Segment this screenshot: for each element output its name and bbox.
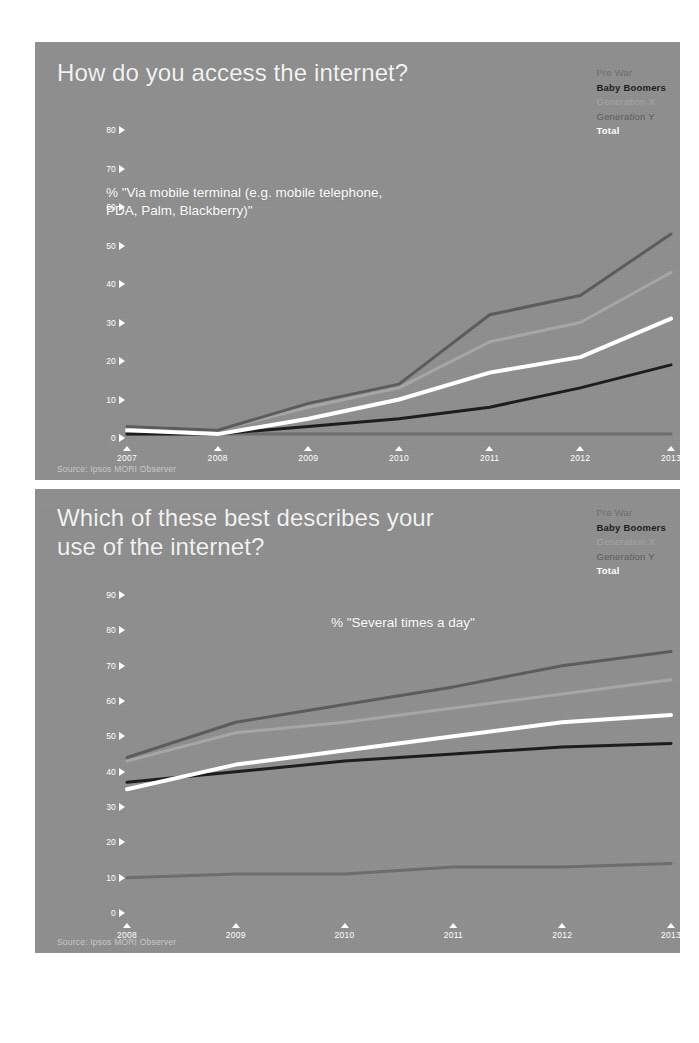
series-line-baby-boomers bbox=[127, 743, 671, 782]
tick-marker-triangle-icon bbox=[449, 923, 457, 928]
x-axis-tick-label: 2013 bbox=[661, 930, 680, 940]
legend-item-generation-y[interactable]: Generation Y bbox=[597, 110, 655, 124]
source-note: Source: Ipsos MORI Observer bbox=[57, 937, 176, 947]
tick-marker-triangle-icon bbox=[341, 923, 349, 928]
x-axis-tick: 2009 bbox=[226, 923, 246, 940]
series-line-pre-war bbox=[127, 864, 671, 878]
x-axis-tick-label: 2009 bbox=[226, 930, 246, 940]
line-chart-internet-use-frequency: 0102030405060708090 20082009201020112012… bbox=[81, 589, 677, 919]
x-axis-tick-label: 2009 bbox=[298, 453, 318, 463]
x-axis-tick: 2010 bbox=[335, 923, 355, 940]
series-line-total bbox=[127, 319, 671, 435]
legend-item-pre-war[interactable]: Pre War bbox=[597, 66, 633, 80]
x-axis-tick-label: 2012 bbox=[570, 453, 590, 463]
x-axis-tick: 2013 bbox=[661, 923, 680, 940]
legend-item-total[interactable]: Total bbox=[597, 564, 620, 578]
x-axis-tick: 2007 bbox=[117, 446, 137, 463]
x-axis-tick: 2010 bbox=[389, 446, 409, 463]
chart-plot-area bbox=[81, 124, 677, 444]
tick-marker-triangle-icon bbox=[232, 923, 240, 928]
tick-marker-triangle-icon bbox=[123, 446, 131, 451]
x-axis-tick: 2008 bbox=[208, 446, 228, 463]
tick-marker-triangle-icon bbox=[486, 446, 494, 451]
legend-item-baby-boomers[interactable]: Baby Boomers bbox=[597, 521, 666, 535]
chart-svg bbox=[81, 589, 677, 919]
x-axis-tick-label: 2007 bbox=[117, 453, 137, 463]
page-title: Which of these best describes your use o… bbox=[57, 503, 434, 562]
x-axis-tick-label: 2010 bbox=[335, 930, 355, 940]
legend-item-generation-x[interactable]: Generation X bbox=[597, 535, 655, 549]
x-axis-tick: 2009 bbox=[298, 446, 318, 463]
legend-item-pre-war[interactable]: Pre War bbox=[597, 506, 633, 520]
x-axis-tick-label: 2012 bbox=[552, 930, 572, 940]
x-axis-tick: 2011 bbox=[444, 923, 463, 940]
line-chart-internet-access: 01020304050607080 2007200820092010201120… bbox=[81, 124, 677, 444]
chart-legend: Pre War Baby Boomers Generation X Genera… bbox=[597, 506, 666, 578]
x-axis-tick: 2013 bbox=[661, 446, 680, 463]
x-axis-tick-label: 2011 bbox=[444, 930, 463, 940]
presentation-deck: How do you access the internet? Pre War … bbox=[0, 0, 699, 1043]
x-axis-tick-label: 2010 bbox=[389, 453, 409, 463]
source-note: Source: Ipsos MORI Observer bbox=[57, 464, 176, 474]
tick-marker-triangle-icon bbox=[395, 446, 403, 451]
x-axis-tick-label: 2013 bbox=[661, 453, 680, 463]
x-axis-tick: 2011 bbox=[480, 446, 499, 463]
tick-marker-triangle-icon bbox=[576, 446, 584, 451]
tick-marker-triangle-icon bbox=[667, 923, 675, 928]
x-axis-tick: 2012 bbox=[570, 446, 590, 463]
chart-plot-area bbox=[81, 589, 677, 919]
tick-marker-triangle-icon bbox=[214, 446, 222, 451]
tick-marker-triangle-icon bbox=[304, 446, 312, 451]
slide-internet-access[interactable]: How do you access the internet? Pre War … bbox=[35, 42, 680, 480]
page-title: How do you access the internet? bbox=[57, 58, 408, 87]
x-axis-tick-label: 2011 bbox=[480, 453, 499, 463]
tick-marker-triangle-icon bbox=[123, 923, 131, 928]
slide-divider bbox=[35, 481, 680, 489]
series-line-total bbox=[127, 715, 671, 789]
legend-item-baby-boomers[interactable]: Baby Boomers bbox=[597, 81, 666, 95]
x-axis-tick-label: 2008 bbox=[208, 453, 228, 463]
legend-item-generation-y[interactable]: Generation Y bbox=[597, 550, 655, 564]
slide-internet-use-frequency[interactable]: Which of these best describes your use o… bbox=[35, 489, 680, 953]
tick-marker-triangle-icon bbox=[667, 446, 675, 451]
tick-marker-triangle-icon bbox=[558, 923, 566, 928]
legend-item-generation-x[interactable]: Generation X bbox=[597, 95, 655, 109]
x-axis-tick: 2012 bbox=[552, 923, 572, 940]
chart-svg bbox=[81, 124, 677, 444]
